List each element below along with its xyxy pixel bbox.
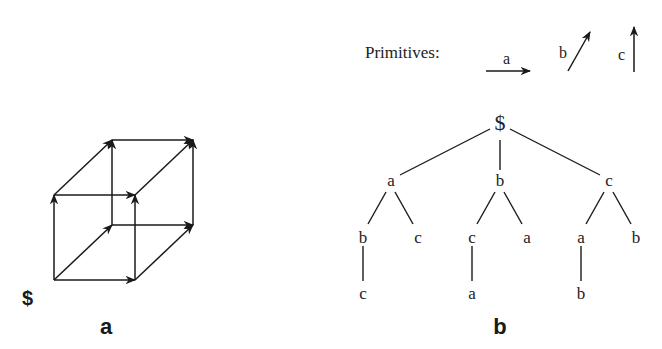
cube-edge-b xyxy=(54,140,112,195)
tree-node-root: $ xyxy=(495,110,506,135)
panel-a-label: a xyxy=(100,314,113,339)
primitive-b-label: b xyxy=(559,44,567,61)
panel-b-label: b xyxy=(493,314,506,339)
tree-edge xyxy=(510,129,600,175)
primitives-legend: Primitives: a b c xyxy=(365,27,634,72)
tree-edge xyxy=(395,192,413,224)
tree-edge xyxy=(586,192,604,224)
derivation-tree: $ a b c b c c a a b c a b b xyxy=(359,110,641,339)
tree-node: c xyxy=(605,171,613,190)
cube-diagram: $ a xyxy=(22,140,193,339)
tree-node: a xyxy=(523,228,531,247)
primitive-c-label: c xyxy=(618,46,625,63)
tree-node: b xyxy=(359,228,368,247)
tree-node: b xyxy=(632,228,641,247)
start-symbol: $ xyxy=(22,287,33,309)
tree-edge xyxy=(368,192,386,224)
tree-node: a xyxy=(468,284,476,303)
tree-edge xyxy=(613,192,631,224)
tree-node: a xyxy=(387,171,395,190)
tree-edge xyxy=(504,192,522,224)
cube-edge-b xyxy=(135,140,193,195)
tree-node: b xyxy=(496,171,505,190)
tree-node: a xyxy=(577,228,585,247)
primitive-a-label: a xyxy=(503,50,510,67)
figure-canvas: $ a Primitives: a b c $ a b c b c xyxy=(0,0,662,349)
tree-node: c xyxy=(468,228,476,247)
primitives-title: Primitives: xyxy=(365,43,440,62)
tree-edge xyxy=(477,192,495,224)
tree-node: c xyxy=(359,284,367,303)
primitive-b-arrow-icon xyxy=(568,32,590,71)
cube-edge-b xyxy=(54,225,112,280)
cube-edge-b xyxy=(135,225,193,280)
tree-node: b xyxy=(577,284,586,303)
tree-edge xyxy=(400,129,490,175)
tree-node: c xyxy=(414,228,422,247)
